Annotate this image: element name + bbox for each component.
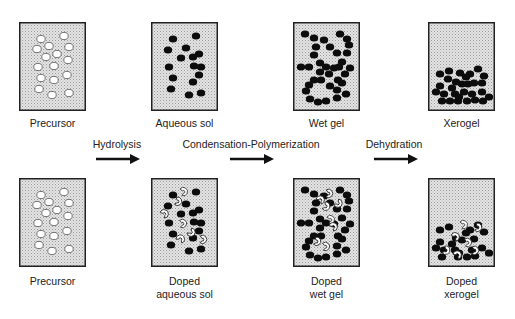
stage-box-gel — [294, 23, 360, 111]
precursor-particle — [63, 227, 71, 234]
particle — [312, 43, 320, 50]
process-step-label: Hydrolysis — [93, 138, 141, 150]
particle — [333, 86, 341, 93]
precursor-particle — [37, 74, 45, 81]
process-step-label: Condensation-Polymerization — [182, 138, 319, 150]
particle — [182, 44, 190, 51]
particle — [310, 51, 318, 58]
stage-label: Wet gel — [309, 117, 344, 130]
particle — [343, 49, 351, 56]
stage-label: Precursor — [30, 275, 76, 288]
particle — [440, 90, 448, 97]
particle — [444, 75, 452, 82]
precursor-particle — [33, 201, 41, 208]
particle — [305, 219, 313, 226]
particle — [312, 199, 320, 206]
precursor-particle — [35, 85, 43, 92]
precursor-particle — [53, 50, 61, 57]
particle — [485, 249, 493, 256]
precursor-particle — [37, 230, 45, 237]
precursor-particle — [37, 191, 45, 198]
particle — [326, 82, 334, 89]
particle — [189, 78, 197, 85]
particle — [169, 230, 177, 237]
precursor-particle — [45, 198, 53, 205]
particle — [462, 229, 470, 236]
particle — [164, 46, 172, 53]
particle — [438, 97, 446, 104]
arrow-icon — [230, 154, 274, 164]
particle — [463, 253, 471, 260]
particle — [485, 93, 493, 100]
particle — [190, 218, 198, 225]
precursor-particle — [64, 56, 72, 63]
particle — [316, 68, 324, 75]
particle — [338, 214, 346, 221]
particle — [462, 73, 470, 80]
particle — [341, 70, 349, 77]
particle — [182, 200, 190, 207]
precursor-particle — [50, 62, 58, 69]
particle — [297, 219, 305, 226]
precursor-particle — [65, 245, 73, 252]
stage-box-sol — [152, 23, 218, 111]
particle — [316, 224, 324, 231]
particle — [343, 205, 351, 212]
particle — [478, 88, 486, 95]
particle — [169, 35, 177, 42]
particle — [342, 90, 350, 97]
precursor-particle — [60, 188, 68, 195]
stage-box-precursor — [20, 179, 86, 267]
particle — [197, 219, 205, 226]
particle — [197, 245, 205, 252]
particle — [320, 36, 328, 43]
precursor-particle — [53, 206, 61, 213]
particle — [341, 226, 349, 233]
stage-box-doped-sol — [152, 179, 218, 267]
particle — [322, 63, 330, 70]
precursor-particle — [34, 63, 42, 70]
particle — [189, 53, 197, 60]
precursor-particle — [42, 209, 50, 216]
particle — [302, 87, 310, 94]
particle — [346, 64, 354, 71]
precursor-particle — [35, 241, 43, 248]
particle — [177, 210, 185, 217]
process-step-label: Dehydration — [366, 138, 423, 150]
particle — [301, 186, 309, 193]
particle — [167, 85, 175, 92]
stage-label: Aqueous sol — [156, 117, 214, 130]
particle — [338, 235, 346, 242]
particle — [474, 65, 482, 72]
particle — [336, 30, 344, 37]
particle — [446, 97, 454, 104]
particle — [333, 49, 341, 56]
particle — [314, 254, 322, 261]
stage-box-xerogel — [429, 23, 495, 111]
particle — [480, 72, 488, 79]
particle — [342, 246, 350, 253]
particle — [445, 223, 453, 230]
arrow-icon — [96, 154, 140, 164]
precursor-particle — [63, 71, 71, 78]
particle — [463, 97, 471, 104]
precursor-particle — [48, 247, 56, 254]
particle — [333, 250, 341, 257]
particle — [322, 253, 330, 260]
particle — [336, 186, 344, 193]
particle — [322, 97, 330, 104]
precursor-particle — [33, 45, 41, 52]
particle — [195, 71, 203, 78]
particle — [325, 70, 333, 77]
stage-box-doped-gel — [294, 179, 360, 267]
precursor-particle — [50, 76, 58, 83]
particle — [478, 79, 486, 86]
arrow-icon — [374, 154, 418, 164]
particle — [305, 63, 313, 70]
precursor-particle — [37, 35, 45, 42]
particle — [164, 202, 172, 209]
particle — [464, 80, 472, 87]
particle — [326, 43, 334, 50]
stage-label: Precursor — [30, 117, 76, 130]
particle — [167, 241, 175, 248]
